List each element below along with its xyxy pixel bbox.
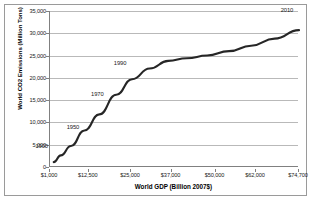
chart-figure: World CO2 Emissions (Million Tons) 05,00… [4,4,307,196]
data-point-label: 2010 [281,7,294,13]
x-tick-mark [49,169,50,172]
x-axis-tick-labels: $1,000$12,500$25,000$37,000$50,000$62,00… [49,169,298,181]
data-point-label: 1950 [67,124,80,130]
y-tick-label: 15,000 [6,97,46,103]
y-tick-label: 0 [6,164,46,170]
x-tick-mark [298,169,299,172]
x-tick-label: $74,700 [268,172,311,178]
co2-gdp-line-series [50,11,299,167]
y-tick-label: 20,000 [6,75,46,81]
y-tick-mark [46,167,49,168]
x-tick-mark [255,169,256,172]
data-point-label: 1990 [114,60,127,66]
data-point-label: 1900 [35,143,48,149]
x-tick-mark [215,169,216,172]
y-tick-label: 25,000 [6,53,46,59]
x-tick-mark [171,169,172,172]
data-point-label: 1970 [91,91,104,97]
y-tick-label: 35,000 [6,8,46,14]
x-axis-title: World GDP (Billion 2007$) [49,183,298,190]
y-tick-label: 10,000 [6,119,46,125]
x-tick-mark [88,169,89,172]
x-tick-mark [130,169,131,172]
plot-area: 19001950197019902010 [49,11,298,167]
y-tick-label: 30,000 [6,30,46,36]
